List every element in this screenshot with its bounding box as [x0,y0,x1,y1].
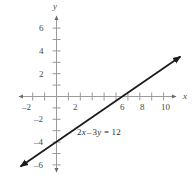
x-tick-label-10: 10 [161,103,170,112]
x-axis-label: x [183,92,187,101]
equation-operator: – [87,127,92,137]
equation-var-y: y [97,127,101,137]
y-tick-label-2: 2 [39,70,44,79]
equation-constant: 12 [112,127,121,137]
data-line [21,57,181,167]
y-tick-label-6: 6 [39,24,44,33]
y-tick-label--4: –4 [34,138,43,147]
equation-annotation: 2x – 3y = 12 [77,128,121,137]
coordinate-plane-svg [0,0,195,178]
y-tick-label--2: –2 [34,115,43,124]
y-tick-label-4: 4 [39,47,44,56]
equation-equals: = [104,127,109,137]
x-tick-label-8: 8 [140,103,145,112]
graph-figure: y x –2 2 6 8 10 6 4 2 –2 –4 –6 2x – 3y =… [0,0,195,178]
y-tick-label--6: –6 [34,161,43,170]
x-tick-label-2: 2 [73,103,78,112]
x-tick-label--2: –2 [22,103,31,112]
equation-var-x: x [82,127,86,137]
y-axis-label: y [53,2,57,11]
x-tick-label-6: 6 [120,103,125,112]
